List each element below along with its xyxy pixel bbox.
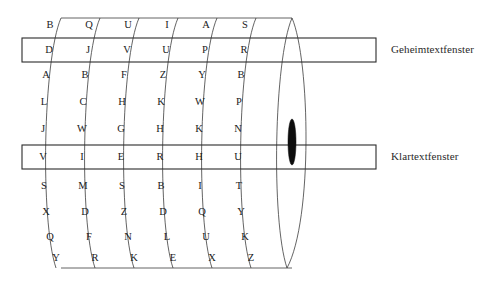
cipher-cylinder-figure: B Q U I A S D J V U P R A B F Z Y B L [0,0,501,286]
letter-cell: D [159,206,167,217]
letter-cell: J [41,123,45,134]
letter-cell: Q [198,206,206,217]
letter-cell: R [156,151,163,162]
plaintext-window-label: Klartextfenster [391,150,458,162]
letter-cell: K [241,231,249,242]
letter-cell: R [240,44,247,55]
letter-cell: F [86,231,92,242]
letter-cell: L [41,96,47,107]
letter-cell: Y [198,69,206,80]
letter-cell: N [124,231,132,242]
letter-row-7: X D Z D Q Y [42,206,245,217]
letter-cell: F [121,69,127,80]
letter-cell: S [119,180,125,191]
letter-cell: Y [52,252,60,263]
letter-cell: P [236,96,242,107]
letter-row-3: L C H K W P [41,96,242,107]
letter-cell: H [118,96,126,107]
letter-cell: I [80,151,84,162]
letter-cell: J [86,44,90,55]
cylinder-body [61,18,292,268]
letter-cell: X [42,206,50,217]
letter-cell: A [202,19,210,30]
letter-cell: W [195,96,205,107]
letter-cell: A [42,69,50,80]
letter-cell: K [130,252,138,263]
letter-row-8: Q F N L U K [46,231,249,242]
index-marker [288,119,296,165]
ciphertext-window-label: Geheimtextfenster [391,43,474,55]
letter-cell: D [81,206,89,217]
letter-cell: K [157,96,165,107]
letter-cell: U [162,44,170,55]
letter-cell: B [157,180,164,191]
letter-cell: R [91,252,98,263]
letter-cell: K [195,123,203,134]
letter-cell: B [237,69,244,80]
letter-row-2: A B F Z Y B [42,69,244,80]
letter-cell: T [236,180,243,191]
letter-cell: V [123,44,131,55]
ciphertext-window-rect [22,38,376,62]
letter-row-0: B Q U I A S [46,19,248,30]
letter-cell: Z [248,252,254,263]
letter-cell: X [208,252,216,263]
letter-cell: B [46,19,53,30]
letter-row-5-plaintext: V I E R H U [39,151,242,162]
letter-cell: Z [121,206,127,217]
letter-cell: Q [85,19,93,30]
letter-row-6: S M S B I T [41,180,243,191]
letter-cell: W [77,123,87,134]
letter-cell: E [118,151,124,162]
letter-cell: P [202,44,208,55]
letter-cell: G [117,123,125,134]
letter-cell: S [242,19,248,30]
letter-cell: M [78,180,88,191]
letter-cell: I [165,19,169,30]
letter-cell: C [79,96,86,107]
disc-outlines [46,18,306,268]
letter-cell: U [124,19,132,30]
letter-cell: S [41,180,47,191]
letter-cell: N [234,123,242,134]
letter-row-4: J W G H K N [41,123,242,134]
letter-cell: Y [237,206,245,217]
letter-cell: H [156,123,164,134]
letter-cell: Z [160,69,166,80]
letter-cell: U [234,151,242,162]
letter-cell: D [45,44,53,55]
letter-row-1-ciphertext: D J V U P R [45,44,247,55]
letter-cell: B [81,69,88,80]
letter-cell: I [198,180,202,191]
letter-cell: L [164,231,170,242]
letter-cell: U [202,231,210,242]
letter-cell: V [39,151,47,162]
letter-cell: H [195,151,203,162]
letter-cell: Q [46,231,54,242]
letter-row-9: Y R K E X Z [52,252,254,263]
letter-cell: E [170,252,176,263]
